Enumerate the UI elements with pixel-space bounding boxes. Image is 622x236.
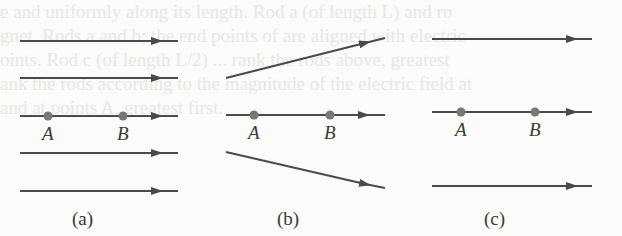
- label-a: A: [40, 123, 54, 144]
- label-b: B: [324, 122, 336, 143]
- caption-b: (b): [277, 208, 299, 230]
- label-a: A: [246, 122, 260, 143]
- label-b: B: [529, 119, 541, 140]
- panel-b: A B (b): [226, 38, 385, 230]
- caption-c: (c): [484, 208, 505, 230]
- diverging-field-line-lower: [226, 152, 385, 188]
- label-a: A: [453, 119, 467, 140]
- diverging-field-line-upper: [226, 38, 385, 78]
- point-a: [457, 108, 466, 117]
- point-b: [531, 108, 540, 117]
- caption-a: (a): [72, 208, 93, 230]
- field-lines-diagram: A B (a) A B (b) A B (c): [0, 0, 622, 236]
- panel-a: A B (a): [20, 41, 178, 230]
- point-a: [250, 111, 259, 120]
- point-b: [119, 112, 128, 121]
- point-a: [44, 112, 53, 121]
- point-b: [326, 111, 335, 120]
- panel-c: A B (c): [432, 39, 592, 230]
- label-b: B: [117, 123, 129, 144]
